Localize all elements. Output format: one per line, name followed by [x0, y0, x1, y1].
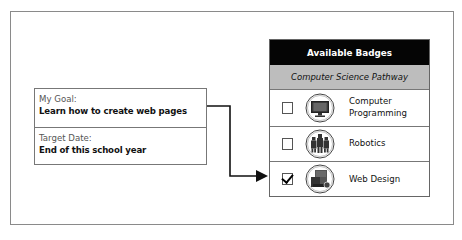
- badge-checkbox-computer-programming[interactable]: [282, 102, 293, 114]
- robots-icon: [305, 129, 335, 159]
- goal-label: My Goal:: [39, 93, 202, 105]
- badge-label-line2: Programming: [349, 108, 407, 120]
- panel-title: Available Badges: [270, 40, 429, 65]
- badge-row-web-design: Web Design: [270, 161, 429, 197]
- badge-label-line1: Web Design: [349, 174, 400, 186]
- badge-checkbox-web-design[interactable]: [282, 173, 293, 185]
- available-badges-panel: Available Badges Computer Science Pathwa…: [269, 39, 430, 197]
- badge-label-line1: Computer: [349, 96, 407, 108]
- badge-row-computer-programming: Computer Programming: [270, 90, 429, 126]
- badge-row-robotics: Robotics: [270, 126, 429, 162]
- badge-label-line1: Robotics: [349, 138, 386, 150]
- pathway-label: Computer Science Pathway: [270, 65, 429, 90]
- badge-label-computer-programming: Computer Programming: [349, 96, 407, 119]
- target-date-section: Target Date: End of this school year: [35, 127, 206, 165]
- badge-checkbox-robotics[interactable]: [282, 138, 293, 150]
- computer-monitor-icon: [305, 93, 335, 123]
- target-date-label: Target Date:: [39, 132, 202, 144]
- goal-card: My Goal: Learn how to create web pages T…: [34, 88, 207, 165]
- target-date-value: End of this school year: [39, 144, 202, 157]
- badge-label-robotics: Robotics: [349, 138, 386, 150]
- web-design-icon: [305, 164, 335, 194]
- goal-value: Learn how to create web pages: [39, 105, 202, 118]
- goal-section: My Goal: Learn how to create web pages: [35, 89, 206, 127]
- badge-label-web-design: Web Design: [349, 174, 400, 186]
